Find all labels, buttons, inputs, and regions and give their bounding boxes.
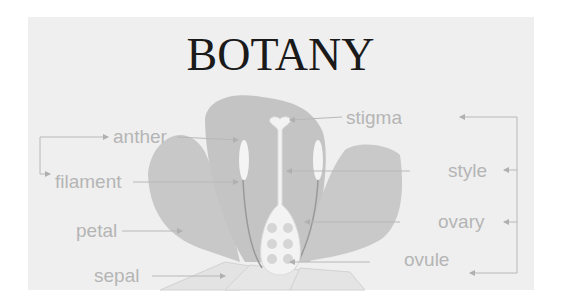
- left-bracket: [40, 137, 108, 174]
- label-sepal: sepal: [94, 266, 139, 285]
- label-filament: filament: [55, 172, 122, 191]
- anther-left: [239, 140, 249, 180]
- anther-right: [313, 140, 323, 180]
- label-petal: petal: [76, 221, 117, 240]
- right-bracket: [460, 117, 517, 273]
- diagram-title: BOTANY: [0, 28, 561, 81]
- label-anther: anther: [113, 127, 167, 146]
- label-stigma: stigma: [346, 108, 402, 127]
- label-ovule: ovule: [404, 250, 449, 269]
- label-ovary: ovary: [438, 212, 484, 231]
- label-style: style: [448, 161, 487, 180]
